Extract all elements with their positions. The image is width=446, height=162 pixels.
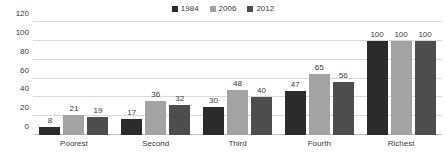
legend-label-2012: 2012 [256, 5, 274, 13]
legend-label-2006: 2006 [219, 5, 237, 13]
y-axis-tick-labels: 020406080100120 [0, 22, 29, 135]
bar[interactable] [367, 41, 388, 135]
bar-slot: 21 [63, 22, 84, 135]
x-axis-category-label: Poorest [33, 139, 115, 148]
bar-group: 173632 [115, 22, 197, 135]
bar-value-label: 100 [370, 31, 383, 39]
bar-slot: 40 [251, 22, 272, 135]
bar-slot: 100 [391, 22, 412, 135]
bar[interactable] [121, 119, 142, 135]
bar[interactable] [169, 105, 190, 135]
bar[interactable] [309, 74, 330, 135]
bar[interactable] [63, 115, 84, 135]
chart-legend: 1984 2006 2012 [0, 2, 446, 15]
bar-value-label: 100 [394, 31, 407, 39]
x-axis-category-labels: PoorestSecondThirdFourthRichest [33, 139, 442, 148]
y-axis-tick-label: 20 [20, 104, 29, 112]
plot-area: 82119173632304840476556100100100 [33, 22, 442, 135]
bar-chart: 1984 2006 2012 020406080100120 821191736… [0, 0, 446, 162]
x-axis-category-label: Second [115, 139, 197, 148]
bar-group: 304840 [197, 22, 279, 135]
legend-swatch-icon-2006 [210, 6, 216, 12]
bar-value-label: 56 [339, 72, 348, 80]
bar-slot: 47 [285, 22, 306, 135]
y-axis-tick-label: 120 [16, 10, 29, 18]
y-axis-tick-label: 40 [20, 85, 29, 93]
bar-value-label: 30 [209, 97, 218, 105]
bar-slot: 56 [333, 22, 354, 135]
bar-slot: 8 [39, 22, 60, 135]
bar[interactable] [333, 82, 354, 135]
bar-slot: 17 [121, 22, 142, 135]
bar-value-label: 48 [233, 80, 242, 88]
bar-value-label: 65 [315, 64, 324, 72]
x-axis-category-label: Richest [360, 139, 442, 148]
bar-slot: 30 [203, 22, 224, 135]
legend-entry-2012: 2012 [247, 5, 274, 13]
bar[interactable] [39, 127, 60, 135]
x-axis-category-label: Fourth [278, 139, 360, 148]
legend-entry-1984: 1984 [172, 5, 199, 13]
legend-label-1984: 1984 [181, 5, 199, 13]
y-axis-tick-label: 80 [20, 48, 29, 56]
bar-value-label: 36 [151, 91, 160, 99]
bar-group: 476556 [278, 22, 360, 135]
bar-value-label: 47 [291, 81, 300, 89]
bar-slot: 32 [169, 22, 190, 135]
bar[interactable] [391, 41, 412, 135]
bar[interactable] [87, 117, 108, 135]
legend-entry-2006: 2006 [210, 5, 237, 13]
bar-value-label: 19 [93, 107, 102, 115]
bar-slot: 100 [415, 22, 436, 135]
y-axis-tick-label: 0 [25, 123, 29, 131]
bar[interactable] [203, 107, 224, 135]
bar-value-label: 8 [48, 117, 52, 125]
bar-value-label: 40 [257, 87, 266, 95]
bar[interactable] [285, 91, 306, 135]
bar-value-label: 17 [127, 109, 136, 117]
bar-group: 82119 [33, 22, 115, 135]
bar-slot: 65 [309, 22, 330, 135]
bar[interactable] [227, 90, 248, 135]
bar-slot: 48 [227, 22, 248, 135]
y-axis-tick-label: 100 [16, 29, 29, 37]
bar[interactable] [251, 97, 272, 135]
y-axis-tick-label: 60 [20, 67, 29, 75]
bar-slot: 19 [87, 22, 108, 135]
bar-value-label: 32 [175, 95, 184, 103]
legend-swatch-icon-1984 [172, 6, 178, 12]
bar-slot: 100 [367, 22, 388, 135]
bar-groups: 82119173632304840476556100100100 [33, 22, 442, 135]
bar-slot: 36 [145, 22, 166, 135]
bar-group: 100100100 [360, 22, 442, 135]
bar[interactable] [415, 41, 436, 135]
bar[interactable] [145, 101, 166, 135]
x-axis-category-label: Third [197, 139, 279, 148]
bar-value-label: 100 [418, 31, 431, 39]
bar-value-label: 21 [69, 105, 78, 113]
legend-swatch-icon-2012 [247, 6, 253, 12]
